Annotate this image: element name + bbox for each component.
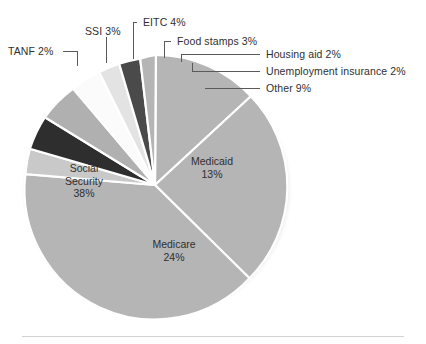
- slice-label-medicaid-value: 13%: [172, 168, 252, 181]
- slice-label-medicare: Medicare 24%: [134, 238, 214, 263]
- slice-label-medicaid: Medicaid 13%: [172, 155, 252, 180]
- slice-label-social-security-value: 38%: [48, 187, 120, 200]
- slice-label-medicare-name: Medicare: [134, 238, 214, 251]
- slice-label-social-security: Social Security 38%: [48, 162, 120, 200]
- slice-label-medicaid-name: Medicaid: [172, 155, 252, 168]
- slice-label-social-security-name2: Security: [48, 175, 120, 188]
- callout-label-housing-aid: Housing aid 2%: [266, 48, 341, 60]
- leader-line-tanf: [63, 51, 77, 66]
- callout-label-other: Other 9%: [266, 82, 311, 94]
- callout-label-tanf: TANF 2%: [8, 45, 53, 57]
- slice-label-medicare-value: 24%: [134, 251, 214, 264]
- pie-chart-figure: TANF 2% SSI 3% EITC 4% Food stamps 3% Ho…: [0, 0, 426, 344]
- slice-label-social-security-name: Social: [48, 162, 120, 175]
- callout-label-unemployment-insurance: Unemployment insurance 2%: [266, 65, 406, 77]
- leader-line-eitc: [133, 22, 137, 59]
- footer-rule: [22, 336, 404, 337]
- callout-label-eitc: EITC 4%: [143, 16, 186, 28]
- callout-label-food-stamps: Food stamps 3%: [177, 35, 257, 47]
- callout-label-ssi: SSI 3%: [85, 25, 121, 37]
